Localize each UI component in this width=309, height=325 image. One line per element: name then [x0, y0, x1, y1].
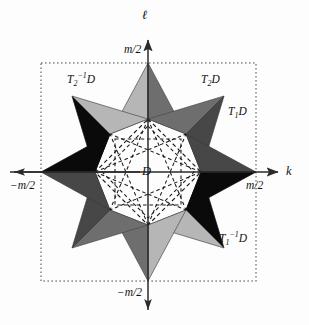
region-label-right-upper-tail: D — [238, 105, 246, 117]
axis-label-k: k — [286, 165, 292, 178]
region-label-top-left-sup: −1 — [77, 71, 86, 80]
axis-label-ell: ℓ — [142, 9, 147, 22]
region-label-top-left-tail: D — [87, 73, 95, 85]
tick-label-top: m/2 — [124, 44, 141, 56]
region-label-top-left: T2−1D — [67, 72, 95, 88]
region-label-top-left-sub: 2 — [73, 79, 77, 88]
region-label-right-lower: T1−1D — [219, 231, 247, 247]
wedge-east-upper — [186, 134, 256, 172]
center-region-label: D — [142, 165, 151, 178]
region-label-top-right-tail: D — [211, 73, 219, 85]
wedge-west-lower — [41, 172, 110, 210]
region-label-right-lower-sub: 1 — [225, 238, 229, 247]
region-label-right-lower-sup: −1 — [229, 230, 238, 239]
figure-canvas: k ℓ m/2 −m/2 −m/2 m/2 D T2−1D T2D T1D T1… — [0, 0, 309, 325]
figure-svg — [0, 0, 309, 325]
wedge-south-right — [148, 210, 186, 281]
tick-label-bottom: −m/2 — [117, 287, 142, 299]
tick-label-left: −m/2 — [10, 180, 35, 192]
region-label-right-lower-tail: D — [239, 232, 247, 244]
region-label-right-upper: T1D — [228, 104, 247, 120]
region-label-top-right: T2D — [201, 72, 220, 88]
tick-label-right: m/2 — [246, 180, 263, 192]
